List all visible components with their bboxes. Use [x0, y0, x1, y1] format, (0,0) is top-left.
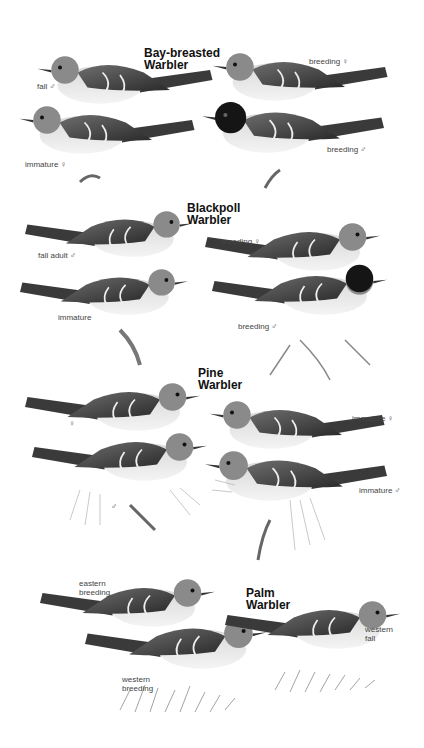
field-guide-plate: Bay-breasted Warbler Blackpoll Warbler P… — [0, 0, 424, 748]
plumage-label: breeding ♂ — [327, 145, 366, 154]
plumage-label: breeding ♂ — [238, 322, 277, 331]
blackpoll-immature — [20, 269, 188, 315]
pine-female — [25, 383, 200, 431]
plumage-label: immature ♀ — [25, 160, 67, 169]
pine-immature-female — [210, 401, 385, 449]
plumage-label: immature — [58, 313, 91, 322]
species-title: Bay-breasted Warbler — [144, 47, 220, 71]
plumage-label: ♂ — [111, 502, 117, 511]
palm-eastern-breeding — [40, 579, 215, 627]
species-title: Palm Warbler — [246, 587, 290, 611]
blackpoll-fall-adult-male — [25, 211, 193, 257]
plumage-label: immature ♀ — [352, 414, 394, 423]
plumage-label: ♀ — [69, 419, 75, 428]
plumage-label: fall adult ♂ — [38, 251, 76, 260]
plumage-label: fall ♂ — [37, 82, 55, 91]
plumage-label: western fall — [365, 625, 393, 643]
plumage-label: breeding ♀ — [309, 57, 348, 66]
plumage-label: breeding ♀ — [221, 237, 260, 246]
plumage-label: eastern breeding — [79, 579, 110, 597]
blackpoll-breeding-female — [205, 223, 380, 271]
plumage-label: immature ♂ — [359, 486, 401, 495]
bay-breasted-immature-female — [20, 106, 195, 154]
grass — [120, 670, 375, 712]
bay-breasted-breeding-female — [213, 53, 388, 101]
pine-male — [32, 433, 207, 481]
species-title: Blackpoll Warbler — [187, 202, 240, 226]
plumage-label: western breeding — [122, 675, 153, 693]
blackpoll-breeding-male — [212, 265, 387, 315]
species-title: Pine Warbler — [198, 367, 242, 391]
